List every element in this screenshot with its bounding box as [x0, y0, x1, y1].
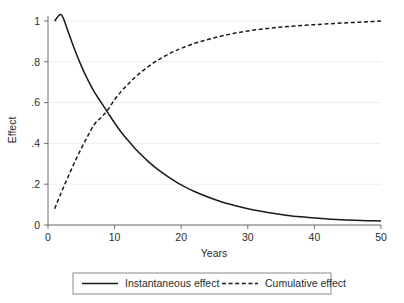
y-tick-label-1: .2 — [31, 178, 40, 190]
legend-label-0: Instantaneous effect — [125, 277, 219, 289]
x-axis-title: Years — [201, 247, 227, 259]
chart-figure: 0.2.4.6.81 01020304050 Effect Years Inst… — [0, 0, 404, 303]
x-tick-label-4: 40 — [309, 231, 321, 243]
x-tick-label-2: 20 — [175, 231, 187, 243]
x-tick-label-0: 0 — [45, 231, 51, 243]
y-tick-label-5: 1 — [34, 15, 40, 27]
y-tick-label-2: .4 — [31, 137, 40, 149]
line-chart-canvas: 0.2.4.6.81 01020304050 Effect Years Inst… — [0, 0, 404, 303]
y-tick-label-3: .6 — [31, 96, 40, 108]
x-tick-label-5: 50 — [375, 231, 387, 243]
chart-legend: Instantaneous effectCumulative effect — [73, 273, 346, 294]
y-tick-label-0: 0 — [34, 219, 40, 231]
x-tick-label-1: 10 — [109, 231, 121, 243]
legend-label-1: Cumulative effect — [265, 277, 346, 289]
x-tick-label-3: 30 — [242, 231, 254, 243]
y-tick-label-4: .8 — [31, 56, 40, 68]
y-axis-title: Effect — [6, 117, 18, 144]
